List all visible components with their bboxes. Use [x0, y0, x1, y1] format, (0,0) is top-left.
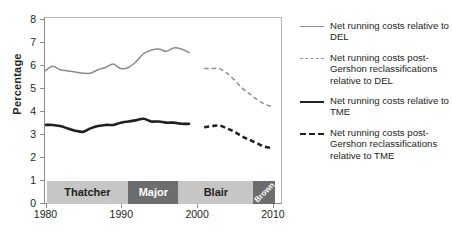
pm-band-label: Blair — [204, 186, 228, 198]
legend-item-2[interactable]: Net running costs post-Gershon reclassif… — [300, 52, 452, 86]
x-tick-label: 2000 — [175, 208, 219, 220]
plot-area: ThatcherMajorBlairBrown — [44, 17, 282, 204]
legend-line-glyph — [300, 101, 324, 103]
pm-band-blair: Blair — [178, 181, 253, 204]
series-line-3 — [45, 119, 189, 132]
series-canvas — [45, 18, 280, 202]
pm-band-label: Major — [139, 186, 168, 198]
legend-item-3[interactable]: Net running costs relative to TME — [300, 95, 452, 118]
y-tick-label: 4 — [8, 106, 36, 116]
y-tick-label: 8 — [8, 14, 36, 24]
x-tick-mark — [46, 204, 47, 208]
legend-marker-black-solid-icon — [300, 95, 324, 109]
chart-figure: Percentage 012345678 1980199020002010 Th… — [0, 0, 452, 240]
pm-band-label: Thatcher — [64, 186, 110, 198]
legend-marker-gray-solid-icon — [300, 20, 324, 34]
x-tick-label: 1990 — [99, 208, 143, 220]
series-line-4 — [204, 126, 272, 148]
legend-line-glyph — [300, 133, 324, 135]
pm-band-label: Brown — [253, 181, 275, 204]
x-tick-mark — [121, 204, 122, 208]
x-tick-label: 2010 — [251, 208, 295, 220]
y-tick-label: 6 — [8, 60, 36, 70]
y-tick-label: 5 — [8, 83, 36, 93]
legend-marker-black-dash-icon — [300, 127, 324, 141]
pm-band-major: Major — [128, 181, 178, 204]
y-tick-label: 3 — [8, 129, 36, 139]
legend-label: Net running costs post-Gershon reclassif… — [330, 127, 452, 161]
pm-band-brown: Brown — [253, 181, 275, 204]
y-tick-label: 7 — [8, 37, 36, 47]
legend-label: Net running costs relative to TME — [330, 95, 452, 118]
chart-legend: Net running costs relative to DELNet run… — [300, 20, 452, 170]
y-tick-label: 0 — [8, 198, 36, 208]
y-tick-label: 1 — [8, 175, 36, 185]
x-tick-mark — [197, 204, 198, 208]
series-line-1 — [45, 48, 189, 74]
legend-item-4[interactable]: Net running costs post-Gershon reclassif… — [300, 127, 452, 161]
legend-line-glyph — [300, 26, 324, 27]
legend-item-1[interactable]: Net running costs relative to DEL — [300, 20, 452, 43]
series-line-2 — [204, 68, 272, 106]
legend-marker-gray-dash-icon — [300, 52, 324, 66]
y-tick-label: 2 — [8, 152, 36, 162]
x-tick-mark — [273, 204, 274, 208]
pm-band-thatcher: Thatcher — [47, 181, 129, 204]
legend-line-glyph — [300, 58, 324, 59]
legend-label: Net running costs relative to DEL — [330, 20, 452, 43]
legend-label: Net running costs post-Gershon reclassif… — [330, 52, 452, 86]
x-tick-label: 1980 — [24, 208, 68, 220]
